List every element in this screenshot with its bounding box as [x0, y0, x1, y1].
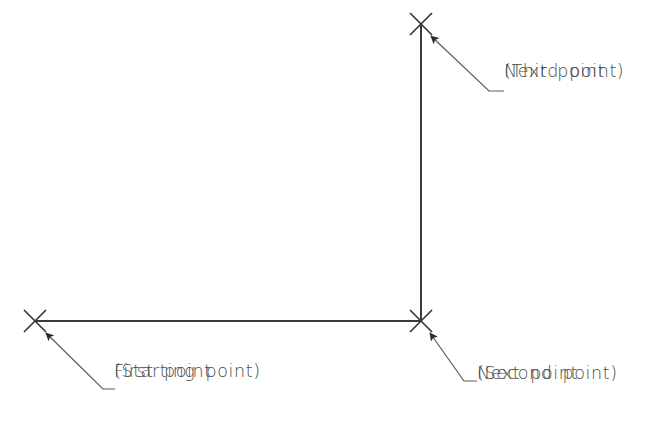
annotation-third-point-line2: (Third point) [504, 60, 624, 83]
polyline-geometry [35, 24, 421, 321]
diagram-canvas: First point (Starting point) Next point … [0, 0, 660, 431]
leader-line-third-point [431, 36, 504, 91]
annotation-first-point-line2: (Starting point) [114, 360, 261, 383]
annotation-second-point-line2: (Second point) [477, 362, 618, 385]
leader-line-first-point [46, 333, 115, 389]
leader-line-second-point [430, 333, 477, 381]
